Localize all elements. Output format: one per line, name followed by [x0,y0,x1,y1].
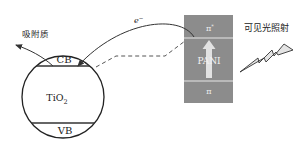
tio2-particle: CB VB TiO2 [20,54,106,138]
dashed-path [96,41,185,67]
electron-transfer-arrow [78,24,194,66]
light-label: 可见光照射 [244,22,289,33]
adsorbate-label: 吸附质 [22,29,49,39]
pani-label: PANI [197,56,221,66]
pani-block: π* π PANI [184,15,233,103]
pi-label: π [206,87,211,96]
electron-label: e− [134,15,144,25]
vb-label: VB [57,125,73,136]
cb-label: CB [57,54,72,65]
lightning-bolt-icon [240,44,293,72]
diagram-canvas: CB VB TiO2 π* π PANI e− 吸附质 可见光照射 [0,0,306,145]
